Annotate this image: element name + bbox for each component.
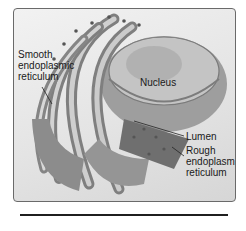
horizontal-rule — [20, 214, 228, 216]
label-nucleus: Nucleus — [140, 77, 176, 88]
figure-frame: Smooth endoplasmic reticulum Nucleus Lum… — [13, 8, 236, 202]
label-smooth-er: Smooth endoplasmic reticulum — [18, 49, 74, 82]
label-rough-er: Rough endoplasmic reticulum — [186, 145, 236, 178]
label-lumen: Lumen — [186, 131, 217, 142]
